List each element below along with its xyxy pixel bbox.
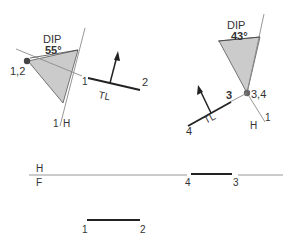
right-point-label: 3,4 [251, 88, 266, 100]
left-tl-segment [88, 78, 140, 90]
front-segment: 1 2 [82, 220, 146, 235]
diagram-canvas: DIP 55° 1,2 1 1 H TL 2 DIP 43° 3,4 3 4 T… [0, 0, 298, 242]
left-tl-label: TL [98, 89, 112, 102]
right-fold-label-one: 1 [265, 112, 271, 123]
left-dip-triangle [28, 50, 78, 103]
fold-point4-label: 4 [185, 177, 191, 188]
right-view: DIP 43° 3,4 3 4 TL H 1 [186, 14, 271, 137]
hf-fold-line: H F 4 3 [29, 163, 283, 188]
left-point-marker [24, 58, 30, 64]
right-dip-angle: 43° [231, 30, 248, 42]
fold-label-h: H [36, 163, 43, 174]
right-fold-label-h: H [250, 120, 257, 131]
right-dip-triangle [219, 37, 260, 93]
front-end2-label: 2 [140, 224, 146, 235]
right-tl-label: TL [202, 110, 218, 125]
left-fold-label-top: 1 [53, 118, 59, 129]
right-tl-segment-thin [230, 93, 247, 102]
right-tl-arrow-shaft [200, 90, 211, 113]
fold-label-f: F [36, 177, 42, 188]
left-point-label: 1,2 [10, 65, 25, 77]
fold-point3-label: 3 [233, 177, 239, 188]
left-fold-label-one: 1 [82, 76, 88, 87]
left-end2-label: 2 [142, 76, 148, 88]
left-fold-label-bottom: H [63, 118, 70, 129]
arrow-up-icon [114, 51, 120, 61]
right-end4-label: 4 [186, 125, 192, 137]
left-dip-angle: 55° [45, 44, 62, 56]
right-end3-label: 3 [226, 89, 232, 101]
front-end1-label: 1 [82, 224, 88, 235]
left-view: DIP 55° 1,2 1 1 H TL 2 [10, 28, 148, 129]
